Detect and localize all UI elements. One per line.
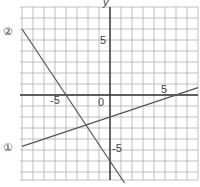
y-tick-pos5: 5: [100, 34, 106, 46]
x-tick-neg5: -5: [50, 94, 60, 106]
line-1-label: ①: [3, 141, 13, 153]
coordinate-plane: y 0 -5 5 5 -5 ① ②: [0, 0, 200, 187]
grid-lines: [20, 7, 198, 180]
x-tick-pos5: 5: [161, 83, 167, 95]
y-tick-neg5: -5: [112, 142, 122, 154]
origin-label: 0: [98, 96, 104, 108]
line-2-label: ②: [3, 25, 13, 37]
